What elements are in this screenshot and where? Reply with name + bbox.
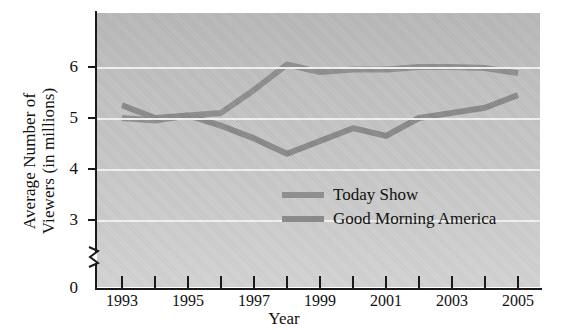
y-axis-title-line2: Viewers (in millions): [39, 26, 58, 296]
y-axis-title: Average Number of Viewers (in millions): [20, 26, 58, 296]
x-tick-1997: [253, 276, 255, 289]
y-tick-label-0: 0: [58, 279, 78, 296]
y-tick-6: [88, 66, 97, 68]
x-tick-1998: [286, 276, 288, 289]
gridline-5: [97, 118, 540, 120]
x-tick-label-1995: 1995: [158, 292, 218, 309]
x-tick-1996: [220, 276, 222, 289]
data-series-layer: [97, 13, 540, 287]
x-tick-label-2003: 2003: [422, 292, 482, 309]
y-axis-title-line1: Average Number of: [20, 26, 39, 296]
y-tick-5: [88, 117, 97, 119]
x-tick-1994: [154, 276, 156, 289]
y-tick-label-5: 5: [58, 109, 78, 126]
legend-item-good-morning-america: Good Morning America: [282, 207, 496, 231]
plot-area: [97, 13, 540, 287]
x-tick-label-1997: 1997: [224, 292, 284, 309]
legend-swatch-today-show: [282, 192, 324, 198]
axis-break-icon: [88, 246, 106, 268]
x-tick-label-2005: 2005: [488, 292, 548, 309]
gridline-6: [97, 67, 540, 69]
legend-item-today-show: Today Show: [282, 183, 496, 207]
line-good-morning-america: [122, 95, 518, 154]
x-tick-1995: [187, 276, 189, 289]
x-tick-label-1999: 1999: [290, 292, 350, 309]
legend-label-good-morning-america: Good Morning America: [333, 210, 496, 228]
legend-swatch-good-morning-america: [282, 216, 324, 222]
x-tick-label-1993: 1993: [92, 292, 152, 309]
x-tick-label-2001: 2001: [356, 292, 416, 309]
x-tick-2000: [352, 276, 354, 289]
x-tick-1993: [121, 276, 123, 289]
y-tick-label-4: 4: [58, 160, 78, 177]
chart-figure: Average Number of Viewers (in millions) …: [0, 0, 568, 330]
x-tick-2002: [418, 276, 420, 289]
x-tick-1999: [319, 276, 321, 289]
gridline-4: [97, 169, 540, 171]
y-axis-line: [95, 11, 97, 252]
legend: Today Show Good Morning America: [282, 183, 496, 231]
x-tick-2004: [484, 276, 486, 289]
y-tick-label-3: 3: [58, 211, 78, 228]
x-tick-2003: [451, 276, 453, 289]
y-tick-3: [88, 219, 97, 221]
x-tick-2001: [385, 276, 387, 289]
legend-label-today-show: Today Show: [333, 186, 418, 204]
y-tick-label-6: 6: [58, 58, 78, 75]
y-tick-4: [88, 168, 97, 170]
x-tick-2005: [517, 276, 519, 289]
x-axis-title: Year: [0, 310, 568, 328]
